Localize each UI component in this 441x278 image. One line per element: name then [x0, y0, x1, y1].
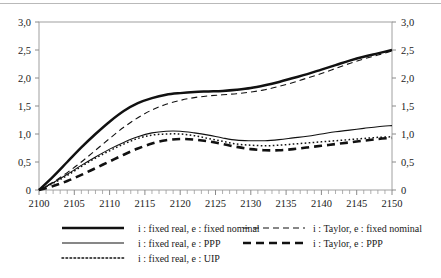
y-axis-label-left: 0,5: [18, 157, 31, 168]
x-axis-label: 2115: [135, 198, 156, 209]
y-axis-label-right: 1,5: [401, 101, 414, 112]
chart-figure: 000,50,51,01,01,51,52,02,02,52,53,03,021…: [0, 0, 441, 278]
y-axis-label-left: 2,0: [18, 73, 31, 84]
series-line-3: [39, 126, 392, 190]
y-axis-label-right: 2,0: [401, 73, 414, 84]
y-axis-label-right: 0: [401, 185, 406, 196]
x-axis-label: 2125: [205, 198, 226, 209]
x-axis-label: 2110: [99, 198, 120, 209]
y-axis-label-right: 1,0: [401, 129, 414, 140]
x-axis-label: 2135: [276, 198, 297, 209]
y-axis-label-left: 0: [26, 185, 31, 196]
plot-frame: [39, 22, 392, 190]
y-axis-label-left: 2,5: [18, 45, 31, 56]
y-axis-label-right: 0,5: [401, 157, 414, 168]
x-axis-label: 2145: [346, 198, 367, 209]
series-line-5: [39, 138, 392, 190]
x-axis-label: 2120: [170, 198, 191, 209]
y-axis-label-left: 3,0: [18, 17, 31, 28]
legend-label-5: i : Taylor, e : PPP: [313, 238, 383, 249]
x-axis-label: 2130: [240, 198, 261, 209]
y-axis-label-left: 1,5: [18, 101, 31, 112]
legend-label-4: i : Taylor, e : fixed nominal: [313, 223, 422, 234]
line-chart-plot: 000,50,51,01,01,51,52,02,02,52,53,03,021…: [0, 0, 441, 278]
legend-label-2: i : fixed real, e : PPP: [138, 238, 221, 249]
x-axis-label: 2140: [311, 198, 332, 209]
legend-label-3: i : fixed real, e : UIP: [138, 253, 220, 264]
y-axis-label-left: 1,0: [18, 129, 31, 140]
x-axis-label: 2105: [64, 198, 85, 209]
y-axis-label-right: 2,5: [401, 45, 414, 56]
x-axis-label: 2150: [382, 198, 403, 209]
x-axis-label: 2100: [29, 198, 50, 209]
y-axis-label-right: 3,0: [401, 17, 414, 28]
legend-label-1: i : fixed real, e : fixed nominal: [138, 223, 260, 234]
